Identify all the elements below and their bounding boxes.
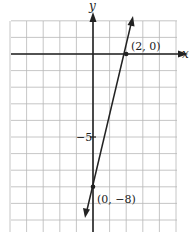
x-axis: x <box>11 47 189 61</box>
point-b: (0, −8) <box>91 185 136 207</box>
y-axis: y −5 <box>76 0 97 232</box>
tick-label-neg5: −5 <box>76 131 92 144</box>
plotted-line <box>83 16 135 218</box>
y-axis-label: y <box>88 0 96 13</box>
point-b-label: (0, −8) <box>97 193 136 206</box>
line-arrow-up-icon <box>128 16 135 27</box>
y-axis-arrow-icon <box>90 12 97 22</box>
line-arrow-down-icon <box>83 208 90 218</box>
coordinate-plane: x y −5 (2, 0) (0, −8) <box>0 0 195 240</box>
point-a-label: (2, 0) <box>131 40 161 53</box>
x-axis-label: x <box>182 47 189 61</box>
